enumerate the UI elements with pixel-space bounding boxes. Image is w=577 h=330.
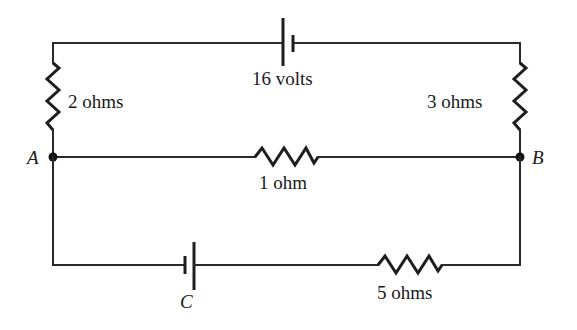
top-branch: 16 volts (53, 18, 520, 89)
resistor-right: 3 ohms (427, 63, 526, 157)
wire-bottom-right (442, 157, 520, 265)
middle-branch: 1 ohm (53, 148, 520, 193)
battery-bottom-icon (185, 242, 194, 290)
resistor-left-icon (47, 63, 59, 130)
circuit-diagram: 16 volts 2 ohms 3 ohms 1 ohm A B C 5 ohm… (0, 0, 577, 330)
wire-bottom-left (53, 157, 185, 265)
resistor-left-label: 2 ohms (68, 91, 123, 112)
resistor-bottom-label: 5 ohms (377, 282, 432, 303)
node-b-label: B (532, 147, 544, 168)
resistor-left: 2 ohms (47, 63, 123, 157)
resistor-middle-icon (255, 148, 318, 165)
wire-top-left (53, 43, 283, 63)
resistor-middle-label: 1 ohm (259, 172, 307, 193)
resistor-bottom-icon (378, 256, 442, 273)
node-a-label: A (25, 147, 39, 168)
battery-top-icon (283, 18, 293, 66)
resistor-right-icon (514, 63, 526, 130)
battery-top-label: 16 volts (252, 68, 313, 89)
battery-bottom-label: C (180, 291, 193, 312)
wire-top-right (293, 43, 520, 63)
resistor-right-label: 3 ohms (427, 91, 482, 112)
